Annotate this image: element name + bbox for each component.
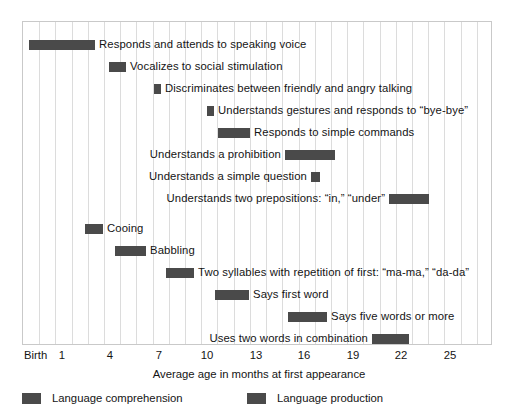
milestone-label: Says five words or more [331, 311, 454, 322]
gridline [461, 22, 462, 344]
milestone-row: Two syllables with repetition of first: … [166, 262, 469, 284]
gridline [282, 22, 283, 344]
gridline [347, 22, 348, 344]
milestone-row: Says first word [215, 284, 329, 306]
x-tick-label: 13 [250, 349, 263, 361]
legend-swatch-icon [22, 393, 41, 404]
plot-area: Responds and attends to speaking voiceVo… [22, 21, 492, 345]
legend-item-language-comprehension: Language comprehension [22, 392, 183, 404]
gridline [120, 22, 121, 344]
milestone-bar [154, 84, 161, 94]
legend-swatch-icon [247, 393, 266, 404]
language-milestones-chart: Responds and attends to speaking voiceVo… [0, 0, 518, 412]
x-tick-label: 1 [59, 349, 65, 361]
milestone-row: Vocalizes to social stimulation [109, 56, 283, 78]
gridline [153, 22, 154, 344]
gridline [380, 22, 381, 344]
legend-item-language-production: Language production [247, 392, 383, 404]
x-tick-label: 25 [444, 349, 457, 361]
gridline [315, 22, 316, 344]
gridline [104, 22, 105, 344]
x-tick-label: 22 [395, 349, 408, 361]
milestone-label: Understands two prepositions: “in,” “und… [167, 193, 385, 204]
milestone-bar [215, 290, 249, 300]
gridline [428, 22, 429, 344]
gridline [266, 22, 267, 344]
gridline [396, 22, 397, 344]
milestone-label: Understands gestures and responds to “by… [218, 105, 468, 116]
milestone-bar [166, 268, 194, 278]
milestone-row: Responds to simple commands [218, 122, 414, 144]
milestone-label: Says first word [253, 289, 329, 300]
gridline [88, 22, 89, 344]
gridline [234, 22, 235, 344]
milestone-bar [207, 106, 214, 116]
milestone-row: Understands a prohibition [23, 144, 335, 166]
x-tick-label: 19 [347, 349, 360, 361]
legend-label-comprehension: Language comprehension [52, 392, 183, 404]
milestone-row: Uses two words in combination [23, 328, 409, 345]
x-tick-label: 4 [107, 349, 113, 361]
gridline [299, 22, 300, 344]
milestone-bar [288, 312, 327, 322]
x-tick-label: 7 [156, 349, 162, 361]
milestone-bar [109, 62, 126, 72]
legend-label-production: Language production [277, 392, 383, 404]
milestone-label: Responds and attends to speaking voice [99, 39, 306, 50]
gridline [217, 22, 218, 344]
gridline [477, 22, 478, 344]
gridline [185, 22, 186, 344]
milestone-row: Cooing [85, 218, 143, 240]
gridline [201, 22, 202, 344]
milestone-row: Understands a simple question [23, 166, 320, 188]
x-axis-title: Average age in months at first appearanc… [0, 368, 518, 380]
gridline [72, 22, 73, 344]
gridline [136, 22, 137, 344]
milestone-label: Responds to simple commands [254, 127, 414, 138]
milestone-bar [285, 150, 335, 160]
gridline [363, 22, 364, 344]
milestone-label: Understands a simple question [149, 171, 307, 182]
x-tick-label: 10 [201, 349, 214, 361]
milestone-label: Babbling [150, 245, 195, 256]
x-tick-label: 16 [298, 349, 311, 361]
milestone-row: Says five words or more [288, 306, 454, 328]
milestone-row: Understands two prepositions: “in,” “und… [23, 188, 429, 210]
milestone-label: Cooing [107, 223, 143, 234]
chart-legend: Language comprehension Language producti… [22, 392, 492, 408]
gridline [412, 22, 413, 344]
milestone-row: Responds and attends to speaking voice [29, 34, 306, 56]
gridline [169, 22, 170, 344]
milestone-row: Babbling [115, 240, 195, 262]
x-tick-label: Birth [24, 349, 47, 361]
gridline [55, 22, 56, 344]
x-axis-tick-labels: Birth147101316192225 [0, 349, 518, 365]
milestone-bar [372, 334, 409, 344]
gridline [39, 22, 40, 344]
gridline [331, 22, 332, 344]
gridline [444, 22, 445, 344]
gridline [250, 22, 251, 344]
